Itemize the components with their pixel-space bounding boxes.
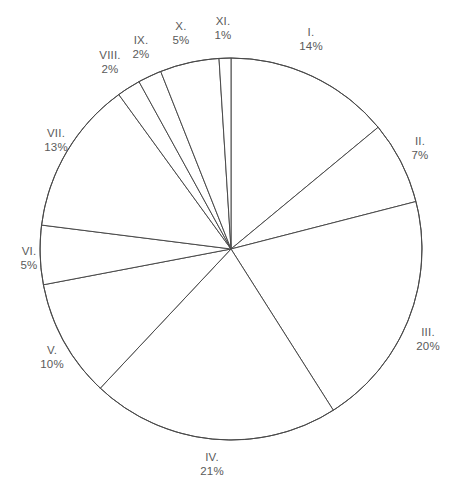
pie-slice-label: VI.5% [20, 244, 37, 272]
pie-slice-label-name: I. [299, 25, 323, 39]
pie-slice-label: III.20% [416, 325, 440, 353]
pie-slice-label-name: IV. [200, 450, 224, 464]
pie-slice-label-value: 1% [214, 28, 231, 42]
pie-slice-label-value: 7% [411, 148, 428, 162]
pie-slice-label: IV.21% [200, 450, 224, 478]
pie-slice-label: V.10% [40, 343, 64, 371]
pie-slice-label-name: VI. [20, 244, 37, 258]
pie-slice-label: I.14% [299, 25, 323, 53]
pie-slice-label: VII.13% [44, 126, 68, 154]
pie-slice-label: II.7% [411, 134, 428, 162]
pie-slice-label-value: 20% [416, 339, 440, 353]
pie-slice-label-name: VII. [44, 126, 68, 140]
pie-slice-label: XI.1% [214, 14, 231, 42]
pie-slice-label-value: 13% [44, 140, 68, 154]
pie-chart-svg [0, 0, 455, 497]
pie-slice-label-value: 21% [200, 464, 224, 478]
pie-slice-label-name: II. [411, 134, 428, 148]
pie-slice-label-value: 10% [40, 357, 64, 371]
pie-slice-label: IX.2% [132, 33, 149, 61]
pie-slice-label-value: 2% [132, 47, 149, 61]
pie-slice-label-value: 5% [172, 33, 189, 47]
pie-slice-label-value: 2% [99, 62, 120, 76]
pie-slice-label-name: VIII. [99, 48, 120, 62]
pie-slice-label-name: XI. [214, 14, 231, 28]
pie-slice-label-name: V. [40, 343, 64, 357]
pie-slice-label-name: III. [416, 325, 440, 339]
pie-slice-label-name: IX. [132, 33, 149, 47]
pie-chart: I.14%II.7%III.20%IV.21%V.10%VI.5%VII.13%… [0, 0, 455, 497]
pie-slice-label: X.5% [172, 19, 189, 47]
pie-slice-label-name: X. [172, 19, 189, 33]
pie-slice-label-value: 14% [299, 39, 323, 53]
pie-slice-label: VIII.2% [99, 48, 120, 76]
pie-slice-label-value: 5% [20, 258, 37, 272]
